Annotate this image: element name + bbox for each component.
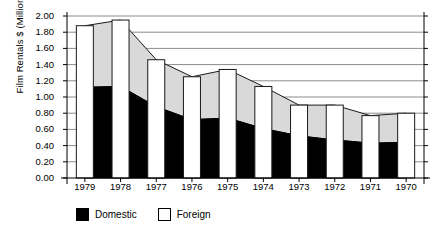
foreign-swatch-icon <box>158 208 171 221</box>
bar-1975 <box>219 69 236 178</box>
legend-label-foreign: Foreign <box>177 209 211 220</box>
bar-1977 <box>148 60 165 178</box>
bar-1974 <box>255 86 272 178</box>
bar-1979 <box>76 26 93 178</box>
legend-item-domestic: Domestic <box>76 208 137 221</box>
legend-item-foreign: Foreign <box>158 208 211 221</box>
domestic-swatch-icon <box>76 208 89 221</box>
bar-1971 <box>362 116 379 178</box>
legend-label-domestic: Domestic <box>95 209 137 220</box>
bar-1973 <box>291 105 308 178</box>
bar-1972 <box>326 105 343 178</box>
chart-container: Film Rentals $ (Millions) 2.001.801.601.… <box>0 0 444 232</box>
chart-legend: Domestic Foreign <box>76 208 225 221</box>
bar-1978 <box>112 20 129 178</box>
bar-1970 <box>398 113 415 178</box>
plot-area <box>0 0 444 232</box>
bar-1976 <box>183 77 200 178</box>
